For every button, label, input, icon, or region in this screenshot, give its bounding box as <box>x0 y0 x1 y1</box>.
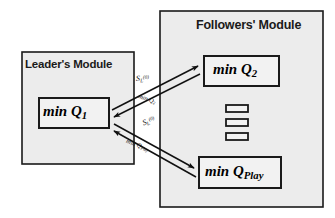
node-label-q2-base: min Q <box>213 61 252 77</box>
node-label-qplay: min QPlay <box>205 163 264 181</box>
node-label-q1-subscript: 1 <box>82 109 87 121</box>
edge-label-leader-to-q2: SL(0) <box>136 74 149 84</box>
ellipsis-mark-3 <box>226 133 248 140</box>
ellipsis-mark-2 <box>226 119 248 126</box>
edge-label-s-top-superscript: (0) <box>143 75 149 80</box>
ellipsis-mark-1 <box>226 105 248 112</box>
module-title-leader: Leader's Module <box>25 58 112 70</box>
node-label-q2-subscript: 2 <box>252 67 257 79</box>
module-title-followers: Followers' Module <box>196 18 301 32</box>
diagram-canvas: Leader's Module Followers' Module min Q1… <box>0 0 335 218</box>
node-label-q2: min Q2 <box>213 61 257 79</box>
node-label-q1-base: min Q <box>43 103 82 119</box>
node-label-qplay-base: min Q <box>205 163 244 179</box>
node-label-qplay-subscript: Play <box>244 169 264 181</box>
edge-label-s-bot-superscript: (0) <box>148 115 155 122</box>
node-label-q1: min Q1 <box>43 103 87 121</box>
